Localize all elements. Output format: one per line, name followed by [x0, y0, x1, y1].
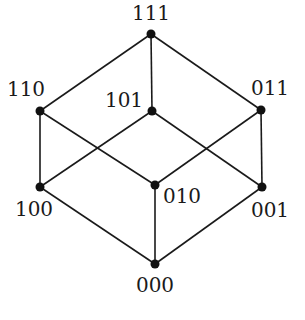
vertex-000: [151, 260, 160, 269]
vertex-001: [258, 183, 267, 192]
vertex-label-101: 101: [105, 88, 143, 112]
vertex-label-011: 011: [251, 76, 289, 100]
edge-011-010: [155, 110, 261, 185]
vertex-101: [148, 107, 157, 116]
edge-111-101: [151, 34, 152, 111]
vertex-label-000: 000: [136, 273, 174, 297]
boolean-cube-diagram: 111110101011100010001000: [0, 0, 305, 320]
vertex-010: [151, 181, 160, 190]
vertex-label-010: 010: [163, 184, 201, 208]
edge-111-011: [151, 34, 261, 110]
vertex-label-100: 100: [15, 197, 53, 221]
edges-group: [40, 34, 262, 264]
edge-011-001: [261, 110, 262, 187]
vertex-111: [147, 30, 156, 39]
vertex-100: [36, 183, 45, 192]
labels-group: 111110101011100010001000: [7, 1, 289, 297]
edge-100-000: [40, 187, 155, 264]
vertex-label-110: 110: [7, 77, 45, 101]
vertex-011: [257, 106, 266, 115]
vertex-label-111: 111: [132, 1, 170, 25]
vertex-110: [36, 107, 45, 116]
vertex-label-001: 001: [251, 198, 289, 222]
